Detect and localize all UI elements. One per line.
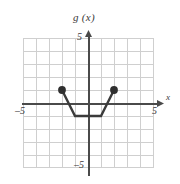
function-title-label: g (x) (73, 12, 95, 23)
x-axis-tick-label-left: –5 (15, 106, 25, 116)
x-axis-tick-label-right: 5 (152, 106, 157, 116)
endpoint-right-closed (110, 86, 118, 94)
graph-figure: g (x) 5 –5 –5 5 x (0, 0, 180, 184)
y-axis-tick-label-top: 5 (77, 32, 82, 42)
x-axis (22, 100, 164, 107)
x-axis-name-label: x (166, 93, 170, 102)
y-axis-tick-label-bottom: –5 (74, 160, 84, 170)
coordinate-plane (0, 0, 180, 184)
endpoint-left-closed (58, 86, 66, 94)
